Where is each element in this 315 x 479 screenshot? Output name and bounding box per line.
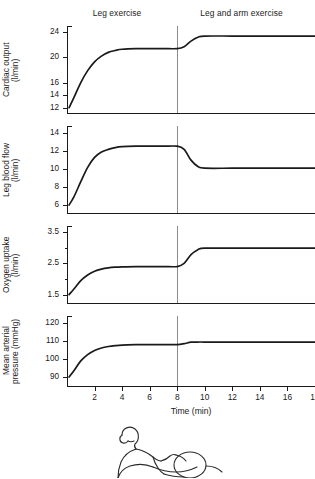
y-tick-labels-leg-blood-flow: 14121086 <box>26 126 62 214</box>
y-tick-mark <box>63 205 67 206</box>
y-tick-labels-oxygen-uptake: 3.52.51.5 <box>26 226 62 304</box>
x-tick-label: 2 <box>92 393 97 402</box>
x-tick-mark <box>95 386 96 391</box>
y-tick-mark <box>63 187 67 188</box>
y-tick-label: 24 <box>50 28 59 36</box>
panel-baseline <box>67 113 315 114</box>
panel-baseline <box>67 303 315 304</box>
x-tick-mark <box>232 386 233 391</box>
y-tick-mark <box>63 377 67 378</box>
x-tick-mark <box>260 386 261 391</box>
x-tick-label: 18 <box>310 393 315 402</box>
x-tick-label: 6 <box>147 393 152 402</box>
y-tick-mark <box>63 57 67 58</box>
x-tick-mark <box>287 386 288 391</box>
y-tick-mark <box>63 133 67 134</box>
panel-leg-blood-flow: Leg blood flow (l/min) 14121086 <box>0 126 315 214</box>
y-tick-label: 12 <box>50 104 59 112</box>
y-tick-mark <box>63 295 67 296</box>
y-tick-mark <box>63 83 67 84</box>
x-axis-title: Time (min) <box>67 406 315 416</box>
x-tick-mark <box>177 386 178 391</box>
y-tick-mark <box>63 359 67 360</box>
x-tick-mark <box>205 386 206 391</box>
y-tick-label: 110 <box>46 337 59 345</box>
y-tick-label: 16 <box>50 79 59 87</box>
y-tick-label: 14 <box>50 129 59 137</box>
x-tick-label: 16 <box>283 393 292 402</box>
y-tick-labels-cardiac-output: 2420161412 <box>26 26 62 114</box>
phase-header-row: Leg exercise Leg and arm exercise <box>0 8 315 24</box>
x-tick-label: 10 <box>200 393 209 402</box>
y-axis-label-cardiac-output: Cardiac output (l/min) <box>2 26 14 114</box>
x-tick-label: 4 <box>120 393 125 402</box>
y-tick-label: 90 <box>50 373 59 381</box>
x-axis: Time (min) 24681012141618 <box>67 386 315 416</box>
panel-baseline <box>67 213 315 214</box>
x-tick-mark <box>150 386 151 391</box>
y-tick-label: 14 <box>50 91 59 99</box>
y-tick-label: 6 <box>54 201 59 209</box>
x-tick-mark <box>122 386 123 391</box>
y-tick-label: 3.5 <box>48 228 59 236</box>
plot-area-leg-blood-flow <box>67 126 315 214</box>
phase-label-leg-and-arm-exercise: Leg and arm exercise <box>168 8 315 18</box>
y-tick-mark <box>65 248 68 249</box>
y-tick-mark <box>63 169 67 170</box>
curve-oxygen-uptake <box>67 226 315 304</box>
y-tick-mark <box>63 341 67 342</box>
y-tick-mark <box>63 32 67 33</box>
x-tick-label: 8 <box>175 393 180 402</box>
y-tick-mark <box>63 95 67 96</box>
person-exercising-icon <box>78 422 248 478</box>
curve-mean-arterial-pressure <box>67 316 315 386</box>
y-tick-label: 1.5 <box>48 291 59 299</box>
exercise-illustration <box>0 420 315 479</box>
panel-cardiac-output: Cardiac output (l/min) 2420161412 <box>0 26 315 114</box>
y-axis-label-oxygen-uptake: Oxygen uptake (l/min) <box>2 226 14 304</box>
plot-area-oxygen-uptake <box>67 226 315 304</box>
y-tick-mark <box>63 151 67 152</box>
y-tick-label: 120 <box>45 319 59 327</box>
y-tick-mark <box>65 279 68 280</box>
y-tick-mark <box>63 232 67 233</box>
y-tick-label: 2.5 <box>48 259 59 267</box>
y-tick-label: 10 <box>50 165 59 173</box>
y-axis-label-mean-arterial-pressure: Mean arterial pressure (mmHg) <box>2 312 14 390</box>
y-tick-label: 20 <box>50 53 59 61</box>
plot-area-mean-arterial-pressure <box>67 316 315 386</box>
plot-area-cardiac-output <box>67 26 315 114</box>
physiology-exercise-figure: Leg exercise Leg and arm exercise Cardia… <box>0 0 315 479</box>
panel-mean-arterial-pressure: Mean arterial pressure (mmHg) 1201101009… <box>0 316 315 386</box>
y-tick-label: 12 <box>50 147 59 155</box>
x-tick-label: 12 <box>228 393 237 402</box>
y-tick-label: 8 <box>54 183 59 191</box>
phase-label-leg-exercise: Leg exercise <box>66 8 168 18</box>
y-tick-mark <box>63 108 67 109</box>
y-tick-labels-mean-arterial-pressure: 12011010090 <box>26 316 62 386</box>
x-axis-line <box>67 386 315 387</box>
y-axis-label-leg-blood-flow: Leg blood flow (l/min) <box>2 126 14 214</box>
panel-oxygen-uptake: Oxygen uptake (l/min) 3.52.51.5 <box>0 226 315 304</box>
curve-leg-blood-flow <box>67 126 315 214</box>
y-tick-label: 100 <box>45 355 59 363</box>
x-tick-label: 14 <box>255 393 264 402</box>
y-tick-mark <box>63 323 67 324</box>
y-tick-mark <box>63 263 67 264</box>
curve-cardiac-output <box>67 26 315 114</box>
